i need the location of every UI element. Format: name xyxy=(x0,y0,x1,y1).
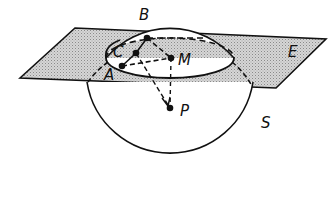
label-s: S xyxy=(261,114,271,132)
sphere-plane-diagram: B C A M P E S xyxy=(0,0,336,203)
point-p xyxy=(167,105,174,112)
label-a: A xyxy=(103,66,114,84)
label-m: M xyxy=(178,51,191,69)
point-m xyxy=(168,55,175,62)
label-b: B xyxy=(139,6,149,24)
point-b xyxy=(144,35,151,42)
label-e: E xyxy=(288,43,298,61)
label-p: P xyxy=(180,102,190,120)
point-a xyxy=(119,63,126,70)
point-c xyxy=(133,50,140,57)
label-c: C xyxy=(113,43,124,61)
